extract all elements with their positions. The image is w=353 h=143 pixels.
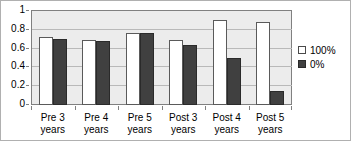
x-category-line1: Pre 3 [31, 112, 75, 124]
x-category-label: Pre 4 years [75, 106, 119, 142]
x-tick-mark [291, 106, 292, 110]
bar-group [162, 10, 206, 105]
bar-series-100[interactable] [169, 40, 183, 105]
bar-series-0[interactable] [140, 33, 154, 105]
bar-group [205, 10, 249, 105]
y-tick-mark [26, 10, 29, 11]
x-category-line1: Post 4 [205, 112, 249, 124]
y-tick-mark [26, 29, 29, 30]
x-tick-mark [118, 106, 119, 110]
y-tick-mark [26, 66, 29, 67]
x-axis: Pre 3 years Pre 4 years Pre 5 years Post… [31, 106, 292, 142]
x-category-label: Pre 3 years [31, 106, 75, 142]
bar-series-100[interactable] [213, 20, 227, 105]
x-tick-mark [205, 106, 206, 110]
y-tick-label: 0.8 [11, 24, 25, 34]
x-category-line2: years [75, 124, 119, 136]
bar-series-100[interactable] [126, 33, 140, 105]
x-category-line2: years [205, 124, 249, 136]
x-category-line1: Pre 4 [75, 112, 119, 124]
x-tick-mark [75, 106, 76, 110]
bar-series-100[interactable] [256, 22, 270, 105]
y-tick-label: 1 [19, 5, 25, 15]
white-square-swatch-icon [298, 46, 306, 54]
bar-groups [31, 10, 292, 105]
legend: 100% 0% [298, 43, 352, 71]
bar-series-0[interactable] [96, 41, 110, 105]
x-category-line1: Post 3 [162, 112, 206, 124]
x-tick-mark [249, 106, 250, 110]
chart-container: 1 0.8 0.6 0.4 0.2 0 [0, 0, 351, 141]
x-category-line2: years [249, 124, 293, 136]
x-category-label: Post 3 years [162, 106, 206, 142]
y-tick-mark [26, 85, 29, 86]
y-tick-label: 0.4 [11, 61, 25, 71]
dark-square-swatch-icon [298, 60, 306, 68]
x-category-line1: Pre 5 [118, 112, 162, 124]
bar-group [31, 10, 75, 105]
x-category-line1: Post 5 [249, 112, 293, 124]
y-tick-label: 0.6 [11, 43, 25, 53]
x-category-line2: years [162, 124, 206, 136]
x-tick-mark [31, 106, 32, 110]
legend-item-0[interactable]: 0% [298, 57, 352, 71]
x-category-label: Post 5 years [249, 106, 293, 142]
x-tick-mark [162, 106, 163, 110]
x-category-line2: years [118, 124, 162, 136]
x-category-line2: years [31, 124, 75, 136]
bar-series-0[interactable] [183, 45, 197, 105]
bar-group [75, 10, 119, 105]
bar-series-100[interactable] [82, 40, 96, 105]
y-axis: 1 0.8 0.6 0.4 0.2 0 [1, 10, 29, 105]
bar-group [249, 10, 293, 105]
bar-series-100[interactable] [39, 37, 53, 105]
y-tick-label: 0.2 [11, 80, 25, 90]
y-tick-mark [26, 104, 29, 105]
bar-series-0[interactable] [53, 39, 67, 105]
legend-label: 100% [310, 45, 336, 56]
legend-item-100[interactable]: 100% [298, 43, 352, 57]
bar-series-0[interactable] [227, 58, 241, 105]
x-category-label: Post 4 years [205, 106, 249, 142]
y-tick-label: 0 [19, 99, 25, 109]
bar-series-0[interactable] [270, 91, 284, 105]
bar-group [118, 10, 162, 105]
x-category-label: Pre 5 years [118, 106, 162, 142]
plot-area [31, 10, 292, 105]
legend-label: 0% [310, 59, 324, 70]
y-tick-mark [26, 48, 29, 49]
